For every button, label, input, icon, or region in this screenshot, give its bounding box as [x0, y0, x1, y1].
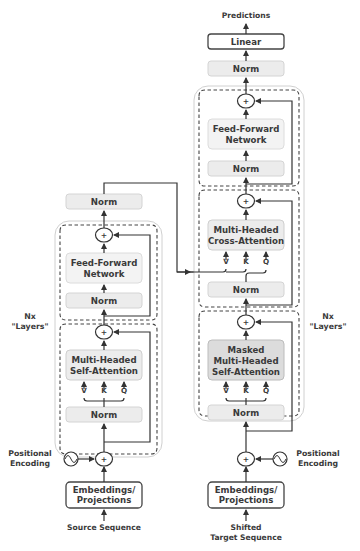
svg-text:Norm: Norm [233, 64, 259, 74]
svg-text:Network: Network [226, 135, 267, 145]
svg-text:+: + [243, 97, 249, 106]
svg-text:Nx: Nx [24, 312, 36, 321]
source-sequence-label: Source Sequence [67, 523, 141, 532]
encoder-final-norm-label: Norm [91, 197, 117, 207]
svg-text:+: + [243, 455, 249, 464]
svg-text:Encoding: Encoding [10, 459, 50, 468]
svg-text:Norm: Norm [233, 285, 259, 295]
decoder: Predictions Linear Norm + Feed-Forward N… [190, 11, 346, 542]
transformer-diagram: Norm + Feed-Forward Network Norm + Multi… [0, 0, 360, 551]
svg-text:Linear: Linear [231, 37, 262, 47]
svg-text:Norm: Norm [91, 410, 117, 420]
svg-text:Nx: Nx [322, 312, 334, 321]
svg-text:Norm: Norm [233, 408, 259, 418]
svg-text:Cross-Attention: Cross-Attention [208, 236, 284, 246]
svg-text:Self-Attention: Self-Attention [70, 366, 138, 376]
shifted-target-label-1: Shifted [231, 523, 262, 532]
svg-text:+: + [243, 197, 249, 206]
svg-text:Multi-Headed: Multi-Headed [71, 355, 136, 365]
svg-text:Projections: Projections [219, 495, 274, 505]
svg-text:"Layers": "Layers" [12, 322, 49, 331]
encoder-ff-label-2: Network [84, 269, 125, 279]
predictions-label: Predictions [222, 11, 271, 20]
encoder-ff-label-1: Feed-Forward [71, 258, 138, 268]
svg-text:+: + [101, 231, 107, 240]
svg-text:+: + [101, 328, 107, 337]
svg-text:+: + [101, 455, 107, 464]
svg-text:Norm: Norm [233, 164, 259, 174]
svg-text:Feed-Forward: Feed-Forward [213, 124, 280, 134]
svg-text:Self-Attention: Self-Attention [212, 367, 280, 377]
svg-text:Positional: Positional [8, 449, 52, 458]
svg-text:Embeddings/: Embeddings/ [73, 485, 136, 495]
svg-text:"Layers": "Layers" [310, 322, 347, 331]
svg-text:Embeddings/: Embeddings/ [215, 485, 278, 495]
svg-text:Encoding: Encoding [298, 459, 338, 468]
svg-text:+: + [243, 318, 249, 327]
shifted-target-label-2: Target Sequence [210, 533, 282, 542]
svg-text:Positional: Positional [296, 449, 340, 458]
svg-text:Multi-Headed: Multi-Headed [213, 225, 278, 235]
svg-text:Multi-Headed: Multi-Headed [213, 356, 278, 366]
svg-text:Norm: Norm [91, 296, 117, 306]
svg-text:Masked: Masked [228, 345, 265, 355]
svg-text:Projections: Projections [77, 495, 132, 505]
